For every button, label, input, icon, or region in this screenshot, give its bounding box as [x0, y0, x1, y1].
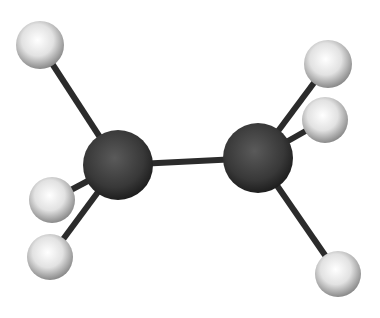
hydrogen-atom-h1 — [16, 21, 64, 69]
carbon-atom-c1 — [83, 130, 153, 200]
hydrogen-atom-h6 — [315, 251, 361, 297]
hydrogen-atom-h3 — [302, 97, 348, 143]
carbon-atom-c2 — [223, 123, 293, 193]
hydrogen-atom-h4 — [29, 177, 75, 223]
hydrogen-atom-h5 — [27, 234, 73, 280]
ethane-molecule-diagram — [0, 0, 380, 318]
hydrogen-atom-h2 — [304, 40, 352, 88]
